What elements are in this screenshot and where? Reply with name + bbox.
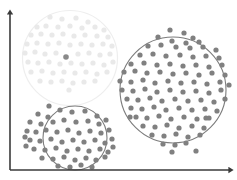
data-point <box>68 60 73 65</box>
data-point <box>216 55 221 60</box>
data-point <box>124 96 129 101</box>
data-point <box>196 72 201 77</box>
data-point <box>50 156 55 161</box>
data-point <box>67 42 72 47</box>
data-point <box>164 122 169 127</box>
data-point <box>222 72 227 77</box>
data-point <box>181 114 186 119</box>
data-point <box>101 27 106 32</box>
data-point <box>94 33 99 38</box>
data-point <box>102 154 107 159</box>
data-point <box>152 124 157 129</box>
data-point <box>27 137 32 142</box>
data-point <box>85 118 90 123</box>
data-point <box>31 146 36 151</box>
data-point <box>206 64 211 69</box>
data-point <box>61 117 66 122</box>
data-point <box>101 62 106 67</box>
data-point <box>183 40 188 45</box>
data-point <box>128 61 133 66</box>
data-point <box>57 61 62 66</box>
plot-canvas <box>0 0 237 180</box>
data-point <box>200 44 205 49</box>
data-point <box>191 79 196 84</box>
data-point <box>53 50 58 55</box>
data-point <box>194 116 199 121</box>
data-point <box>50 70 55 75</box>
data-point <box>75 146 80 151</box>
data-point <box>73 15 78 20</box>
data-point <box>94 71 99 76</box>
data-point <box>38 121 43 126</box>
data-point <box>137 52 142 57</box>
data-point <box>177 52 182 57</box>
data-point <box>135 97 140 102</box>
data-point <box>167 87 172 92</box>
data-point <box>65 127 70 132</box>
data-point <box>128 79 133 84</box>
data-point <box>197 132 202 137</box>
data-point <box>24 128 29 133</box>
data-point <box>75 51 80 56</box>
data-point <box>193 88 198 93</box>
data-point <box>38 31 43 36</box>
data-point <box>49 32 54 37</box>
data-point <box>180 63 185 68</box>
data-point <box>168 116 173 121</box>
data-point <box>28 32 33 37</box>
data-point <box>157 69 162 74</box>
data-point <box>222 96 227 101</box>
data-point <box>154 62 159 67</box>
data-point <box>89 164 94 169</box>
data-point <box>196 39 201 44</box>
data-point <box>214 108 219 113</box>
data-point <box>130 88 135 93</box>
data-point <box>121 69 126 74</box>
highlight-data-point <box>63 54 69 60</box>
data-point <box>110 59 115 64</box>
data-point <box>33 129 38 134</box>
data-point <box>85 19 90 24</box>
data-point <box>105 149 110 154</box>
data-point <box>149 132 154 137</box>
data-point <box>163 53 168 58</box>
cluster-active-cluster-right <box>117 27 231 154</box>
data-point <box>173 131 178 136</box>
data-point <box>92 137 97 142</box>
data-point <box>72 157 77 162</box>
data-point <box>167 27 172 32</box>
data-point <box>178 80 183 85</box>
data-point <box>86 148 91 153</box>
data-point <box>180 89 185 94</box>
data-point <box>155 34 160 39</box>
data-point <box>92 78 97 83</box>
data-point <box>105 34 110 39</box>
data-point <box>37 78 42 83</box>
data-point <box>22 50 27 55</box>
data-point <box>61 154 66 159</box>
data-point <box>106 127 111 132</box>
data-point <box>202 106 207 111</box>
data-point <box>107 51 112 56</box>
data-point <box>141 60 146 65</box>
data-point <box>45 41 50 46</box>
data-point <box>34 40 39 45</box>
data-point <box>35 111 40 116</box>
data-point <box>206 90 211 95</box>
data-point <box>152 80 157 85</box>
data-point <box>53 145 58 150</box>
data-point <box>165 78 170 83</box>
data-point <box>45 114 50 119</box>
data-point <box>198 97 203 102</box>
data-point <box>176 105 181 110</box>
data-point <box>189 123 194 128</box>
data-point <box>83 69 88 74</box>
data-point <box>59 16 64 21</box>
data-point <box>172 96 177 101</box>
data-point <box>78 41 83 46</box>
data-point <box>94 113 99 118</box>
data-point <box>37 138 42 143</box>
data-point <box>119 87 124 92</box>
data-point <box>72 70 77 75</box>
data-point <box>79 61 84 66</box>
